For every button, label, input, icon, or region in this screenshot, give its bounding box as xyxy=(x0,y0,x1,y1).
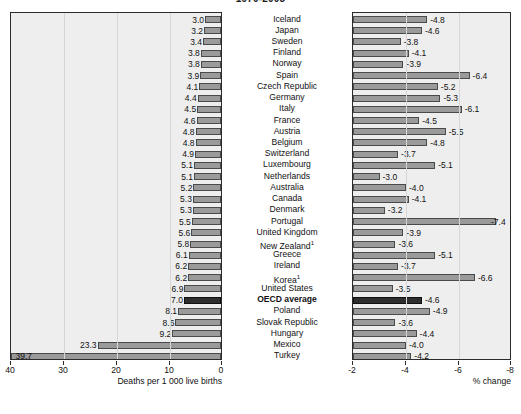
chart-row: 3.2 xyxy=(11,25,221,36)
country-label: Czech Republic xyxy=(222,81,352,92)
chart-row: 5.5 xyxy=(11,216,221,227)
chart-row: -6.6 xyxy=(353,272,510,283)
axis-tick-label: 10 xyxy=(164,365,174,376)
bar-value-label: 3.0 xyxy=(184,15,204,26)
bar-levels xyxy=(205,16,221,23)
change-axis-title: % change xyxy=(473,376,511,387)
bar-change xyxy=(353,27,422,34)
chart-row: -3.6 xyxy=(353,239,510,250)
gridline xyxy=(170,13,171,359)
change-bar-rows: -4.8-4.6-3.8-4.1-3.9-6.4-5.2-5.3-6.1-4.5… xyxy=(353,13,510,359)
bar-change xyxy=(353,106,462,113)
bar-change xyxy=(353,196,409,203)
bar-change-highlight xyxy=(353,297,422,304)
bar-change xyxy=(353,207,385,214)
bar-levels xyxy=(201,50,221,57)
bar-value-label: -4.8 xyxy=(430,15,445,26)
chart-row: 6.9 xyxy=(11,283,221,294)
chart-row: Iceland xyxy=(222,13,352,24)
axis-tick-label: 40 xyxy=(5,365,15,376)
bar-change xyxy=(353,353,411,360)
chart-row: 4.8 xyxy=(11,126,221,137)
chart-title: 1970-2005 xyxy=(0,0,521,4)
bar-value-label: -6.1 xyxy=(465,104,480,115)
chart-row: Belgium xyxy=(222,136,352,147)
bar-levels xyxy=(200,72,221,79)
country-label: Austria xyxy=(222,126,352,137)
bar-value-label: -7.4 xyxy=(491,217,506,228)
bar-change xyxy=(353,173,380,180)
chart-row: OECD average xyxy=(222,294,352,305)
bar-change xyxy=(353,83,438,90)
chart-row: Canada xyxy=(222,193,352,204)
bar-value-label: -5.3 xyxy=(443,93,458,104)
bar-value-label: 5.6 xyxy=(170,228,190,239)
chart-row: -3.8 xyxy=(353,36,510,47)
bar-levels xyxy=(197,106,221,113)
bar-change xyxy=(353,319,395,326)
axis-tick-label: -4 xyxy=(401,365,409,376)
bar-value-label: 5.8 xyxy=(169,239,189,250)
chart-row: 6.1 xyxy=(11,250,221,261)
bar-value-label: 5.2 xyxy=(172,183,192,194)
chart-row: 4.6 xyxy=(11,115,221,126)
country-label: Hungary xyxy=(222,328,352,339)
bar-change xyxy=(353,117,419,124)
bar-value-label: -4.2 xyxy=(414,351,429,360)
bar-change xyxy=(353,274,475,281)
bar-value-label: 4.9 xyxy=(174,149,194,160)
gridline xyxy=(459,13,460,359)
country-label: Turkey xyxy=(222,350,352,361)
chart-row: Denmark xyxy=(222,204,352,215)
chart-row: -4.0 xyxy=(353,182,510,193)
bar-value-label: -5.1 xyxy=(438,160,453,171)
country-label: Mexico xyxy=(222,339,352,350)
chart-row: -4.9 xyxy=(353,306,510,317)
bar-value-label: -5.1 xyxy=(438,250,453,261)
bar-value-label: 3.8 xyxy=(180,48,200,59)
chart-row: Poland xyxy=(222,305,352,316)
chart-row: Austria xyxy=(222,125,352,136)
levels-bar-rows: 3.03.23.43.83.83.94.14.44.54.64.84.84.95… xyxy=(11,13,221,359)
bar-levels xyxy=(193,207,221,214)
chart-row: -5.2 xyxy=(353,81,510,92)
chart-row: -3.2 xyxy=(353,205,510,216)
country-label: Italy xyxy=(222,103,352,114)
chart-row: 4.5 xyxy=(11,104,221,115)
chart-row: -5.3 xyxy=(353,93,510,104)
chart-row: 5.1 xyxy=(11,171,221,182)
chart-row: Mexico xyxy=(222,339,352,350)
bar-levels xyxy=(191,229,221,236)
chart-row: 4.4 xyxy=(11,93,221,104)
chart-row: 5.8 xyxy=(11,239,221,250)
chart-row: Finland xyxy=(222,47,352,58)
chart-row: -3.9 xyxy=(353,59,510,70)
bar-levels xyxy=(172,330,221,337)
bar-value-label: 3.9 xyxy=(179,71,199,82)
bar-change xyxy=(353,16,427,23)
bar-change xyxy=(353,308,430,315)
bar-value-label: -4.4 xyxy=(420,329,435,340)
bar-change xyxy=(353,95,440,102)
chart-row: New Zealand1 xyxy=(222,238,352,249)
chart-row: Luxembourg xyxy=(222,159,352,170)
bar-change xyxy=(353,72,470,79)
bar-change xyxy=(353,342,406,349)
chart-row: -5.1 xyxy=(353,160,510,171)
bar-levels xyxy=(189,252,221,259)
bar-change xyxy=(353,229,403,236)
axis-tick-label: -2 xyxy=(348,365,356,376)
bar-value-label: -3.5 xyxy=(396,284,411,295)
bar-value-label: 39.7 xyxy=(12,351,32,360)
chart-row: -5.5 xyxy=(353,126,510,137)
bar-value-label: -3.7 xyxy=(401,149,416,160)
bar-value-label: 8.6 xyxy=(154,318,174,329)
bar-value-label: 5.1 xyxy=(173,172,193,183)
country-label: Canada xyxy=(222,193,352,204)
country-label: Greece xyxy=(222,249,352,260)
chart-row: -4.6 xyxy=(353,295,510,306)
bar-levels xyxy=(196,128,221,135)
chart-row: 3.8 xyxy=(11,48,221,59)
chart-row: 5.3 xyxy=(11,205,221,216)
country-label: Japan xyxy=(222,25,352,36)
